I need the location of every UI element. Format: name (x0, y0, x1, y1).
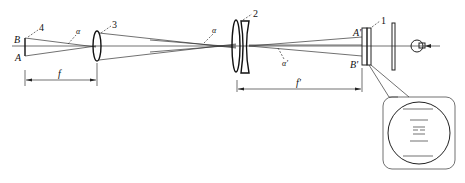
leader-1 (372, 21, 380, 27)
ray (25, 46, 96, 56)
leader-alpha-prime (278, 48, 284, 59)
arrow-head (355, 88, 361, 91)
label-3: 3 (112, 19, 117, 30)
reticle-plate-back (367, 28, 371, 65)
arrow-head (26, 79, 32, 82)
callout-line (371, 65, 409, 97)
eyepiece (419, 43, 425, 48)
label-f-prime: f' (296, 77, 302, 88)
inset-box (383, 97, 455, 169)
label-4: 4 (39, 22, 44, 33)
label-alpha-mid: α (212, 26, 217, 35)
label-object-top: B (14, 34, 20, 45)
label-alpha-prime: α' (282, 59, 288, 68)
optical-diagram: B A 4 α 3 α 2 α' A' B' 1 f f' (0, 0, 465, 183)
label-f: f (58, 68, 62, 79)
label-object-bottom: A (14, 52, 22, 63)
label-alpha-left: α (76, 27, 81, 36)
inset-field-circle (388, 102, 450, 164)
field-plate (392, 23, 395, 70)
arrow-head (238, 88, 244, 91)
label-image-top: A' (352, 27, 362, 38)
label-1: 1 (381, 15, 386, 26)
leader-alpha-mid (204, 34, 213, 43)
leader-4 (28, 30, 38, 37)
arrow-icon (425, 44, 431, 48)
leader-alpha-left (68, 35, 76, 44)
leader-2 (243, 14, 252, 20)
arrow-head (90, 79, 96, 82)
reticle-plate-front (362, 28, 367, 65)
label-image-bottom: B' (350, 59, 359, 70)
ray (249, 46, 362, 56)
leader-3 (101, 26, 111, 33)
label-2: 2 (253, 8, 258, 19)
lens-2-concave (241, 21, 249, 73)
